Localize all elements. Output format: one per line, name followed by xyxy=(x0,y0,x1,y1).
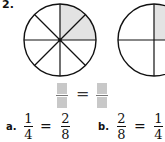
fraction-left: 1 4 xyxy=(24,112,33,141)
fraction-right: 1 4 xyxy=(154,112,163,141)
equals-sign: = xyxy=(134,118,146,134)
equals-sign: = xyxy=(76,84,89,103)
choice-label: b. xyxy=(98,121,109,132)
choice-label: a. xyxy=(6,121,17,132)
numerator: 2 xyxy=(61,112,69,125)
denominator: 8 xyxy=(61,128,69,141)
fraction-bar xyxy=(96,95,108,96)
blank-denominator-left[interactable] xyxy=(57,97,67,108)
denominator: 4 xyxy=(24,128,32,141)
circle-eighths xyxy=(24,4,96,76)
numerator: 1 xyxy=(154,112,162,125)
blank-numerator-right[interactable] xyxy=(97,83,107,94)
blank-numerator-left[interactable] xyxy=(57,83,67,94)
numerator: 1 xyxy=(24,112,32,125)
equals-sign: = xyxy=(40,118,52,134)
circle-fourths xyxy=(118,4,165,76)
fraction-right: 2 8 xyxy=(61,112,70,141)
fraction-bar xyxy=(56,95,68,96)
numerator: 2 xyxy=(117,112,125,125)
blank-denominator-right[interactable] xyxy=(97,97,107,108)
fraction-left: 2 8 xyxy=(117,112,126,141)
fraction-circles xyxy=(0,0,165,80)
denominator: 4 xyxy=(154,128,162,141)
denominator: 8 xyxy=(117,128,125,141)
